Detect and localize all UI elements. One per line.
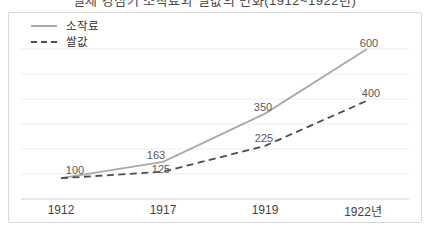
series-line-ssalgap bbox=[61, 101, 367, 179]
point-label-sojakryo-1917: 163 bbox=[147, 149, 165, 161]
legend-item-ssalgap: 쌀값 bbox=[31, 34, 99, 50]
point-label-sojakryo-1922: 600 bbox=[360, 37, 378, 49]
point-label-1912-shared: 100 bbox=[66, 164, 84, 176]
point-label-ssalgap-1917: 125 bbox=[152, 163, 170, 175]
legend-label: 소작료 bbox=[66, 18, 99, 34]
point-label-ssalgap-1922: 400 bbox=[362, 87, 380, 99]
x-axis-label-1917: 1917 bbox=[150, 203, 177, 217]
legend-label: 쌀값 bbox=[66, 34, 88, 50]
point-label-sojakryo-1919: 350 bbox=[254, 101, 272, 113]
x-axis-label-1919: 1919 bbox=[252, 203, 279, 217]
legend: 소작료 쌀값 bbox=[31, 18, 99, 50]
x-axis-label-1922: 1922년 bbox=[344, 202, 382, 219]
legend-item-sojakryo: 소작료 bbox=[31, 18, 99, 34]
clipped-title: 일제 강점기 소작료와 쌀값의 변화(1912~1922년) bbox=[0, 0, 429, 9]
chart-panel: 소작료 쌀값 100 163 125 350 225 600 400 1912 … bbox=[8, 12, 422, 223]
point-label-ssalgap-1919: 225 bbox=[255, 132, 273, 144]
x-axis-label-1912: 1912 bbox=[48, 203, 75, 217]
dashed-line-swatch-icon bbox=[31, 41, 57, 43]
solid-line-swatch-icon bbox=[31, 25, 57, 27]
